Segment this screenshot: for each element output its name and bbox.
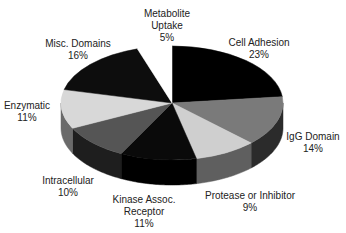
data-label-igg-domain: IgG Domain14%	[286, 131, 339, 155]
data-label-metabolite-uptake: MetaboliteUptake5%	[144, 8, 190, 44]
label-text: Protease or Inhibitor	[205, 190, 295, 202]
label-text: Kinase Assoc.	[113, 194, 176, 206]
label-percent: 23%	[228, 49, 289, 61]
label-text: Intracellular	[42, 175, 94, 187]
label-text: Misc. Domains	[45, 38, 111, 50]
label-percent: 5%	[144, 32, 190, 44]
label-text: IgG Domain	[286, 131, 339, 143]
data-label-protease-or-inhibitor: Protease or Inhibitor9%	[205, 190, 295, 214]
label-percent: 16%	[45, 50, 111, 62]
data-label-intracellular: Intracellular10%	[42, 175, 94, 199]
pie-slices	[61, 46, 283, 160]
data-label-enzymatic: Enzymatic11%	[4, 100, 50, 124]
label-text: Receptor	[113, 206, 176, 218]
label-percent: 9%	[205, 202, 295, 214]
data-label-misc-domains: Misc. Domains16%	[45, 38, 111, 62]
data-label-kinase-assoc-receptor: Kinase Assoc.Receptor11%	[113, 194, 176, 230]
label-percent: 10%	[42, 187, 94, 199]
label-text: Metabolite	[144, 8, 190, 20]
label-text: Uptake	[144, 20, 190, 32]
label-percent: 11%	[113, 218, 176, 230]
label-percent: 14%	[286, 143, 339, 155]
data-label-cell-adhesion: Cell Adhesion23%	[228, 37, 289, 61]
label-text: Cell Adhesion	[228, 37, 289, 49]
label-percent: 11%	[4, 112, 50, 124]
label-text: Enzymatic	[4, 100, 50, 112]
